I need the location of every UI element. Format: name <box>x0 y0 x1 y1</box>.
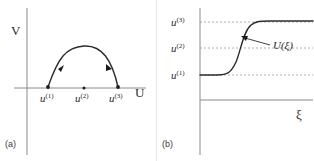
panel-a-tick-u3-sup: (3) <box>115 92 124 100</box>
panel-b-plot: U(ξ) ξ u(3) u(2) u(1) (b) <box>157 0 314 161</box>
panel-a-tick-label-u3: u(3) <box>109 92 123 104</box>
panel-a-point-u2 <box>83 87 86 90</box>
panel-a-tick-u1-sup: (1) <box>46 92 55 100</box>
panel-a-point-u1 <box>46 85 50 89</box>
panel-b-caption: (b) <box>162 139 173 149</box>
panel-b-x-axis-label: ξ <box>296 107 302 122</box>
panel-a-x-axis-label: U <box>135 85 145 100</box>
panel-a-tick-u2-sup: (2) <box>81 92 90 100</box>
panel-b-tick-u3-sup: (3) <box>177 16 186 24</box>
panel-b-annotation-label: U(ξ) <box>273 39 293 52</box>
panel-b-tick-label-u2: u(2) <box>171 42 185 54</box>
panel-a-caption: (a) <box>5 139 16 149</box>
panel-a-flow-arrow-ascending <box>58 65 64 72</box>
panel-a-y-axis-label: V <box>11 23 21 38</box>
panel-b-tick-label-u3: u(3) <box>171 16 185 28</box>
panel-a-tick-label-u2: u(2) <box>75 92 89 104</box>
panel-a-point-u3 <box>116 85 120 89</box>
panel-b-annotation-leader <box>245 38 270 45</box>
panel-b-tick-u1-sup: (1) <box>177 69 186 77</box>
panel-b-tick-u2-sup: (2) <box>177 42 186 50</box>
panel-b-tick-label-u1: u(1) <box>171 69 185 81</box>
figure-container: V U u(1) u(2) u(3) (a) U(ξ) <box>0 0 314 161</box>
panel-a-tick-label-u1: u(1) <box>40 92 54 104</box>
panel-b-annotation-arrowhead <box>241 36 248 41</box>
panel-a-plot: V U u(1) u(2) u(3) (a) <box>0 0 157 161</box>
